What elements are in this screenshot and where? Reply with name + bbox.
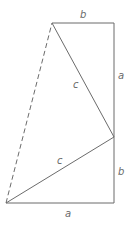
pythagorean-trapezoid-diagram: b a c c b a: [0, 0, 128, 226]
label-right-lower-b: b: [118, 166, 124, 177]
lower-hypotenuse: [6, 137, 114, 203]
label-right-upper-a: a: [118, 70, 124, 81]
label-hyp-lower-c: c: [57, 155, 63, 166]
label-hyp-upper-c: c: [73, 79, 79, 90]
upper-hypotenuse: [52, 23, 114, 137]
label-bottom-a: a: [65, 208, 71, 219]
label-top-b: b: [80, 9, 86, 20]
dashed-left-edge: [6, 23, 52, 203]
